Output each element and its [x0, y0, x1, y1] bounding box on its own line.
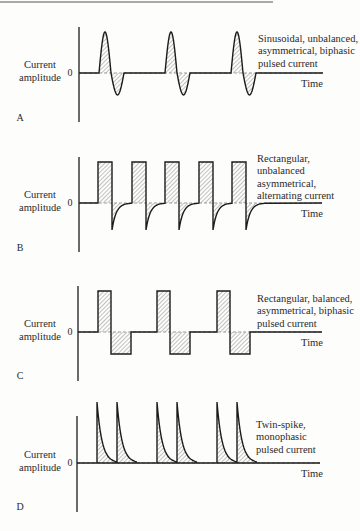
pulse-phase-area [98, 162, 112, 203]
waveform-description: monophasic [256, 431, 307, 442]
pulse-phase-area [111, 332, 131, 354]
panel-c: Currentamplitude0CTimeRectangular, balan… [17, 286, 354, 381]
x-axis-label: Time [301, 468, 323, 479]
pulse-phase-area [157, 291, 170, 332]
y-axis-label-line2: amplitude [19, 72, 61, 83]
y-axis-label-line1: Current [24, 449, 56, 460]
waveform-description: asymmetrical, [257, 178, 316, 189]
pulse-phase-area [232, 162, 246, 203]
waveform-description: asymmetrical, biphasic [257, 305, 354, 316]
waveform-description: pulsed current [258, 58, 318, 69]
waveform-description: Rectangular, balanced, [257, 293, 353, 304]
waveform-description: Rectangular, [257, 153, 310, 164]
pulse-phase-area [230, 332, 250, 354]
x-axis-label: Time [301, 337, 323, 348]
pulse-phase-area [132, 162, 146, 203]
pulse-phase-area [217, 291, 230, 332]
zero-tick-label: 0 [68, 326, 73, 337]
pulse-phase-area [199, 162, 213, 203]
y-axis-label-line2: amplitude [19, 202, 61, 213]
y-axis-label-line1: Current [24, 318, 56, 329]
x-axis-label: Time [301, 208, 323, 219]
y-axis-label-line1: Current [24, 59, 56, 70]
panel-letter: C [17, 370, 24, 381]
y-axis-label-line1: Current [24, 189, 56, 200]
pulse-phase-area [165, 162, 179, 203]
x-axis-label: Time [301, 78, 323, 89]
panel-letter: D [16, 501, 23, 512]
panel-letter: B [17, 242, 24, 253]
y-axis-label-line2: amplitude [19, 331, 61, 342]
panel-letter: A [16, 112, 24, 123]
waveform-description: alternating current [257, 190, 334, 201]
waveform-description: pulsed current [256, 444, 316, 455]
panel-a: Currentamplitude0ATimeSinusoidal, unbala… [16, 27, 358, 123]
panel-b: Currentamplitude0BTimeRectangular,unbala… [17, 153, 335, 253]
figure-canvas: Currentamplitude0ATimeSinusoidal, unbala… [0, 0, 360, 531]
waveform-description: Sinusoidal, unbalanced, [258, 33, 358, 44]
waveform-description: pulsed current [257, 318, 317, 329]
waveform-description: asymmetrical, biphasic [258, 45, 355, 56]
waveform-description: unbalanced [257, 165, 306, 176]
waveform-description: Twin-spike, [256, 419, 306, 430]
zero-tick-label: 0 [68, 457, 73, 468]
panel-d: Currentamplitude0DTimeTwin-spike,monopha… [16, 402, 323, 512]
zero-tick-label: 0 [68, 197, 73, 208]
pulse-phase-area [170, 332, 190, 354]
pulse-phase-area [98, 291, 111, 332]
y-axis-label-line2: amplitude [19, 462, 61, 473]
waveform-figure: Currentamplitude0ATimeSinusoidal, unbala… [0, 0, 360, 531]
zero-tick-label: 0 [68, 67, 73, 78]
